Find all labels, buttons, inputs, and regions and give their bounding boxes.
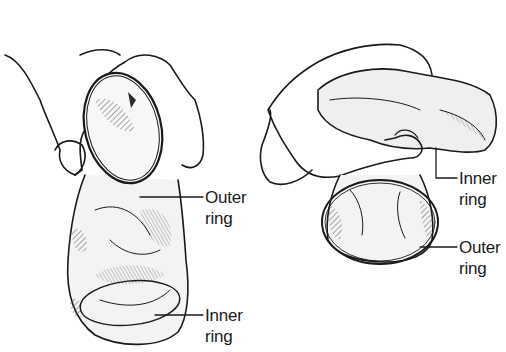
label-line: ring [205,208,247,229]
left-sleeve-icon [68,175,188,344]
left-inner-ring-label: Inner ring [205,305,243,347]
label-line: ring [459,258,501,279]
illustration-artwork [0,0,506,352]
right-inner-ring-leader [436,148,457,178]
label-line: Outer [205,187,247,208]
left-outer-ring-label: Outer ring [205,187,247,229]
label-line: ring [205,326,243,347]
right-outer-ring-label: Outer ring [459,237,501,279]
right-inner-ring-label: Inner ring [459,168,497,210]
label-line: Inner [205,305,243,326]
condom-illustration-figure: Outer ring Inner ring Inner ring Outer r… [0,0,506,352]
right-squeezed-ring-icon [318,69,496,152]
left-panel-drawing [5,50,203,345]
right-sleeve-icon [327,175,433,262]
label-line: Inner [459,168,497,189]
label-line: Outer [459,237,501,258]
label-line: ring [459,189,497,210]
right-panel-drawing [260,44,496,264]
